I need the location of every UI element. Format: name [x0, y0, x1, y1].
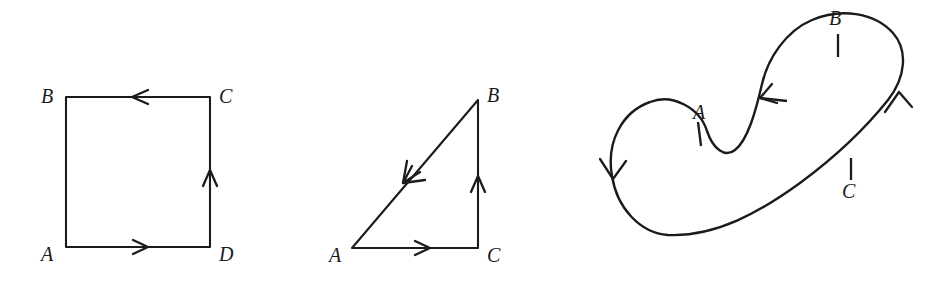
closed-curve-point-label-B: B: [829, 7, 841, 29]
closed-curve-outline: [611, 13, 903, 235]
triangle-vertex-label-C: C: [487, 244, 501, 266]
square-vertex-label-C: C: [219, 85, 233, 107]
closed-curve-tick-A: [698, 122, 701, 146]
panel-oriented-closed-curve: A B C: [600, 7, 912, 235]
triangle-vertex-label-B: B: [487, 84, 499, 106]
closed-curve-point-label-A: A: [691, 101, 706, 123]
panel-oriented-triangle: A B C: [327, 84, 501, 266]
panel-oriented-square: A B C D: [39, 85, 234, 265]
square-vertex-label-A: A: [39, 243, 54, 265]
figure-canvas: A B C D A B C: [0, 0, 952, 297]
square-outline: [66, 97, 210, 247]
square-vertex-label-D: D: [218, 243, 234, 265]
triangle-vertex-label-A: A: [327, 244, 342, 266]
closed-curve-right-lobe-arrow: [885, 92, 912, 112]
figure-root: A B C D A B C: [0, 0, 952, 297]
closed-curve-middle-tick: [760, 98, 787, 101]
square-vertex-label-B: B: [41, 85, 53, 107]
closed-curve-point-label-C: C: [842, 180, 856, 202]
